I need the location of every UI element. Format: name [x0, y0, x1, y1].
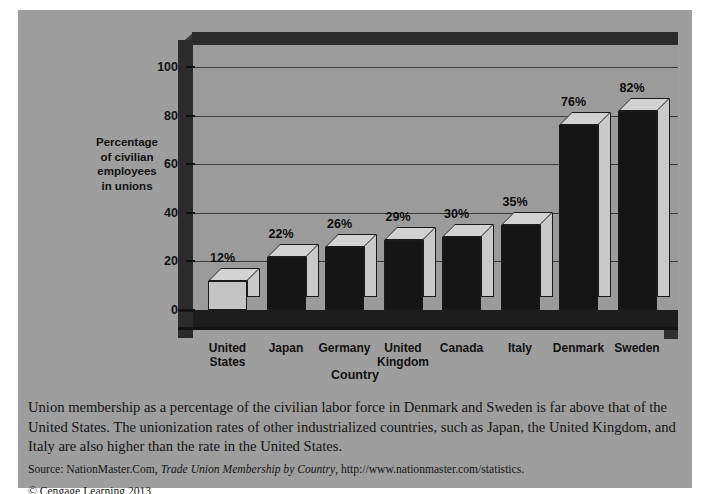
y-tick-label: 60 — [144, 158, 178, 170]
source-suffix: , http://www.nationmaster.com/statistics… — [335, 463, 524, 476]
bar-front-face — [559, 125, 598, 310]
figure-panel: Percentage of civilian employees in unio… — [18, 10, 692, 488]
y-tick-label: 20 — [144, 255, 178, 267]
bar — [559, 125, 598, 310]
bar — [384, 240, 423, 310]
plot-floor — [193, 310, 678, 327]
bar-chart: Percentage of civilian employees in unio… — [18, 10, 692, 385]
x-axis-title: Country — [18, 368, 692, 382]
bar — [501, 225, 540, 310]
bar-value-label: 29% — [386, 210, 411, 224]
y-tick-mark — [186, 212, 195, 214]
caption-copyright: © Cengage Learning 2013 — [28, 485, 684, 494]
bar-value-label: 76% — [561, 95, 586, 109]
frame-left-band — [178, 40, 193, 338]
bar-value-label: 12% — [210, 251, 235, 265]
bar-front-face — [384, 240, 423, 310]
gridline — [193, 67, 678, 68]
y-axis-title-line-1: Percentage — [76, 135, 178, 150]
bar-side-face — [657, 98, 670, 297]
bar — [325, 247, 364, 310]
bar-value-label: 26% — [327, 217, 352, 231]
caption-block: Union membership as a percentage of the … — [28, 398, 684, 494]
bar-value-label: 22% — [269, 227, 294, 241]
caption-source: Source: NationMaster.Com, Trade Union Me… — [28, 463, 684, 476]
bar-value-label: 35% — [503, 195, 528, 209]
source-title: Trade Union Membership by Country — [161, 463, 336, 476]
y-tick-mark — [186, 163, 195, 165]
bar-side-face — [598, 112, 611, 297]
y-tick-label: 0 — [144, 304, 178, 316]
bar-side-face — [540, 212, 553, 297]
bar-front-face — [501, 225, 540, 310]
bar-front-face — [442, 237, 481, 310]
y-tick-label: 80 — [144, 110, 178, 122]
source-prefix: Source: NationMaster.Com, — [28, 463, 161, 476]
y-tick-mark — [186, 260, 195, 262]
y-tick-label: 40 — [144, 207, 178, 219]
y-axis-title-line-4: in unions — [76, 179, 178, 194]
caption-body: Union membership as a percentage of the … — [28, 398, 684, 457]
bar — [442, 237, 481, 310]
bar-value-label: 30% — [444, 207, 469, 221]
y-tick-mark — [186, 115, 195, 117]
y-tick-mark — [186, 66, 195, 68]
bar — [267, 257, 306, 310]
bar — [208, 281, 247, 310]
frame-top-band — [192, 32, 678, 45]
y-tick-mark — [186, 309, 195, 311]
bar-front-face — [618, 111, 657, 310]
y-tick-label: 100 — [144, 61, 178, 73]
bar-front-face — [325, 247, 364, 310]
bar — [618, 111, 657, 310]
bar-front-face — [208, 281, 247, 310]
bar-value-label: 82% — [620, 81, 645, 95]
bar-front-face — [267, 257, 306, 310]
x-category-label: Sweden — [601, 341, 674, 355]
plot-floor-front — [178, 327, 678, 330]
